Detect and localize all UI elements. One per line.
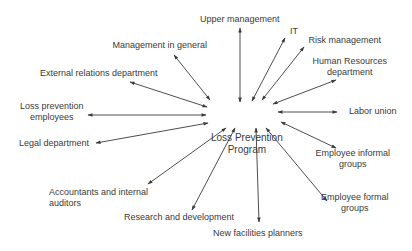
node-legal-department: Legal department bbox=[19, 138, 89, 149]
arrow-management-in-general bbox=[174, 55, 210, 100]
node-label: New facilities planners bbox=[213, 228, 303, 239]
node-label: Accountants and internal bbox=[49, 187, 148, 198]
node-accountants-and-internal-auditors: Accountants and internal auditors bbox=[49, 187, 148, 209]
node-label: Research and development bbox=[124, 212, 234, 223]
node-label: Loss prevention bbox=[20, 101, 84, 112]
node-label: Legal department bbox=[19, 138, 89, 149]
arrow-human-resources-department bbox=[273, 80, 336, 104]
center-node-loss-prevention-program: Loss Prevention Program bbox=[211, 132, 283, 156]
node-labor-union: Labor union bbox=[349, 106, 397, 117]
node-label: Upper management bbox=[200, 14, 280, 25]
node-loss-prevention-employees: Loss prevention employees bbox=[20, 101, 84, 123]
center-line-1: Loss Prevention bbox=[211, 132, 283, 144]
node-label: Management in general bbox=[113, 40, 208, 51]
center-line-2: Program bbox=[211, 144, 283, 156]
node-it: IT bbox=[290, 26, 298, 37]
node-label: Human Resources bbox=[313, 56, 388, 67]
node-employee-informal-groups: Employee informal groups bbox=[316, 148, 391, 170]
node-employee-formal-groups: Employee formal groups bbox=[321, 192, 389, 214]
node-label: Risk management bbox=[309, 35, 382, 46]
node-research-and-development: Research and development bbox=[124, 212, 234, 223]
node-label: IT bbox=[290, 26, 298, 37]
node-label: Employee informal bbox=[316, 148, 391, 159]
node-upper-management: Upper management bbox=[200, 14, 280, 25]
node-external-relations-department: External relations department bbox=[40, 68, 158, 79]
stakeholder-diagram: Loss Prevention Program Upper management… bbox=[0, 0, 412, 251]
node-label: department bbox=[313, 67, 388, 78]
node-label: Employee formal bbox=[321, 192, 389, 203]
node-management-in-general: Management in general bbox=[113, 40, 208, 51]
node-new-facilities-planners: New facilities planners bbox=[213, 228, 303, 239]
arrow-employee-informal-groups bbox=[281, 122, 336, 148]
node-risk-management: Risk management bbox=[309, 35, 382, 46]
node-label: groups bbox=[316, 159, 391, 170]
node-label: groups bbox=[321, 203, 389, 214]
arrow-external-relations-department bbox=[130, 82, 207, 107]
node-label: External relations department bbox=[40, 68, 158, 79]
arrow-risk-management bbox=[262, 47, 304, 100]
node-human-resources-department: Human Resources department bbox=[313, 56, 388, 78]
node-label: Labor union bbox=[349, 106, 397, 117]
node-label: auditors bbox=[49, 198, 148, 209]
node-label: employees bbox=[20, 112, 84, 123]
arrow-legal-department bbox=[96, 123, 208, 143]
